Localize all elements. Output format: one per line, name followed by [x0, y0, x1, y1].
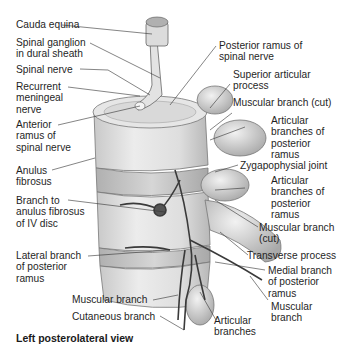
label-articular-branches-1: Articularbranches ofposteriorramus [271, 115, 324, 160]
label-lateral-branch: Lateral branchof posteriorramus [16, 250, 81, 284]
label-articular-branches-bottom: Articularbranches [214, 315, 256, 338]
label-articular-branches-2: Articularbranches ofposteriorramus [271, 175, 324, 220]
label-anterior-ramus: Anteriorramus ofspinal nerve [16, 119, 71, 153]
figure-caption: Left posterolateral view [16, 332, 133, 344]
label-muscular-branch-cut-top: Muscular branch (cut) [233, 97, 332, 108]
label-medial-branch: Medial branchof posteriorramus [268, 265, 332, 299]
label-muscular-branch-right: Muscularbranch [271, 301, 312, 324]
label-muscular-branch-cut-2: Muscular branch(cut) [259, 222, 334, 245]
label-branch-to-anulus: Branch toanulus fibrosusof IV disc [16, 195, 85, 229]
label-posterior-ramus: Posterior ramus ofspinal nerve [219, 40, 302, 63]
vertebral-column [93, 96, 210, 308]
label-zygapophysial-joint: Zygapophysial joint [240, 160, 327, 171]
label-cauda-equina: Cauda equina [16, 19, 79, 30]
label-muscular-branch-bottom: Muscular branch [72, 294, 147, 305]
label-superior-articular-process: Superior articularprocess [233, 69, 311, 92]
label-anulus-fibrosus: Anulusfibrosus [16, 165, 52, 188]
label-spinal-ganglion: Spinal ganglionin dural sheath [16, 37, 86, 60]
label-cutaneous-branch: Cutaneous branch [72, 311, 155, 322]
label-spinal-nerve: Spinal nerve [16, 64, 73, 75]
label-recurrent-meningeal-nerve: Recurrentmeningealnerve [16, 81, 63, 115]
label-transverse-process: Transverse process [247, 250, 336, 261]
